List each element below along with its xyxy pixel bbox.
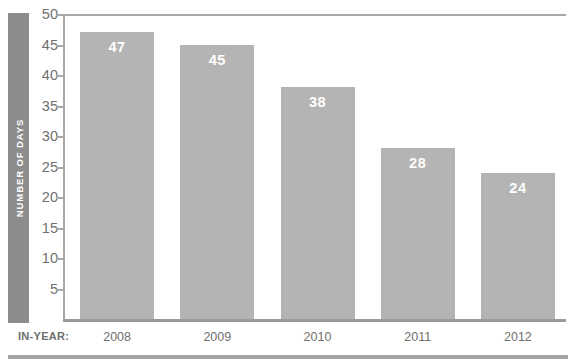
x-axis-tick-label: 2008: [60, 330, 174, 344]
y-axis-tick-label: 35: [18, 99, 58, 114]
y-axis-tick-label: 40: [18, 68, 58, 83]
bar-value-label: 24: [481, 180, 555, 196]
plot-area: 4745382824: [63, 14, 566, 322]
y-axis-tick-label: 45: [18, 38, 58, 53]
y-axis-tick: [56, 14, 63, 16]
bar: 47: [80, 32, 154, 319]
bar-value-label: 38: [281, 94, 355, 110]
y-axis-tick: [56, 45, 63, 47]
bar-series: 4745382824: [65, 14, 566, 319]
x-axis-tick-label: 2011: [361, 330, 475, 344]
x-axis-row: IN-YEAR: 20082009201020112012: [0, 330, 576, 350]
y-axis-tick: [56, 136, 63, 138]
y-axis-tick: [56, 289, 63, 291]
y-axis-tick-label: 10: [18, 251, 58, 266]
y-axis-tick-label: 5: [18, 282, 58, 297]
bar: 38: [281, 87, 355, 319]
bar: 24: [481, 173, 555, 319]
y-axis-tick: [56, 228, 63, 230]
x-axis-tick-label: 2012: [461, 330, 575, 344]
bar-chart: NUMBER OF DAYS 5045403530252015105 47453…: [0, 0, 576, 363]
y-axis-tick: [56, 106, 63, 108]
y-axis-tick-label: 20: [18, 190, 58, 205]
bar-value-label: 47: [80, 39, 154, 55]
y-axis-tick: [56, 75, 63, 77]
bar: 45: [180, 45, 254, 320]
y-axis-tick-labels: 5045403530252015105: [14, 14, 58, 322]
y-axis-tick-label: 50: [18, 7, 58, 22]
y-axis-tick-label: 25: [18, 160, 58, 175]
bottom-rule: [8, 355, 568, 359]
x-axis-tick-label: 2009: [160, 330, 274, 344]
clipped-title-strip: [0, 0, 576, 7]
x-axis-tick-label: 2010: [261, 330, 375, 344]
y-axis-tick: [56, 197, 63, 199]
y-axis-tick: [56, 258, 63, 260]
bar: 28: [381, 148, 455, 319]
y-axis-tick-label: 15: [18, 221, 58, 236]
x-axis-line: [63, 319, 566, 322]
bar-value-label: 45: [180, 52, 254, 68]
bar-value-label: 28: [381, 155, 455, 171]
y-axis-tick-label: 30: [18, 129, 58, 144]
y-axis-tick: [56, 167, 63, 169]
